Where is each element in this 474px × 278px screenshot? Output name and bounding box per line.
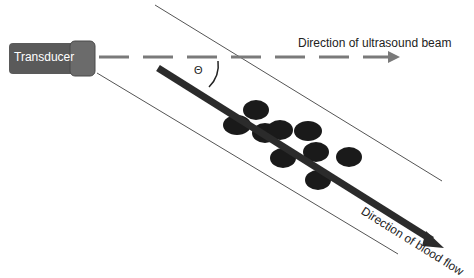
angle-theta-label: Θ: [194, 64, 203, 76]
transducer-label: Transducer: [14, 50, 74, 64]
angle-arc: [209, 61, 218, 87]
ultrasound-beam-arrow: [99, 51, 400, 63]
red-blood-cells: [223, 100, 362, 190]
beam-direction-label: Direction of ultrasound beam: [298, 36, 451, 50]
